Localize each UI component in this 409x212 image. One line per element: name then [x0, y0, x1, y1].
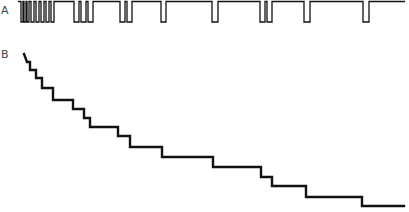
- cumulative-staircase-trace: [24, 54, 404, 206]
- spike-train-trace: [18, 2, 405, 23]
- diagram-canvas: [0, 0, 409, 212]
